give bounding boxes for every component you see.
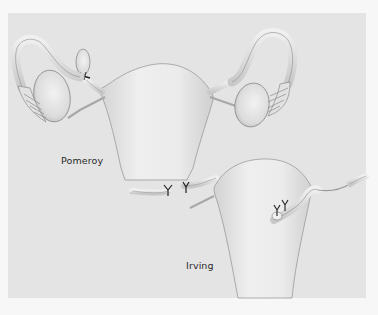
right-fimbriae [268, 82, 290, 116]
irving-distal-tube [318, 184, 350, 191]
pomeroy-tube-loop [76, 49, 90, 75]
pomeroy-uterine-body [98, 64, 213, 180]
right-fallopian-tube [232, 33, 293, 85]
irving-uterine-body [214, 159, 312, 298]
right-ovary [231, 80, 272, 129]
label-pomeroy: Pomeroy [61, 155, 103, 166]
pomeroy-uterus [16, 33, 293, 181]
label-irving: Irving [186, 260, 214, 271]
